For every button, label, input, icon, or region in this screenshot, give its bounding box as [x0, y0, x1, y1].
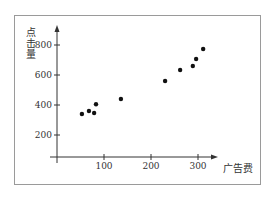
x-axis-title: 广告费: [223, 162, 253, 174]
y-axis-title: 点击量: [26, 27, 36, 60]
data-point: [201, 47, 205, 51]
data-point: [94, 102, 98, 106]
data-point: [119, 97, 123, 101]
x-tick-label: 100: [95, 161, 112, 171]
data-point: [163, 79, 167, 83]
y-tick-label: 600: [35, 70, 52, 80]
x-tick-label: 300: [189, 161, 206, 171]
data-point: [92, 111, 96, 115]
data-point: [178, 68, 182, 72]
y-tick-label: 400: [35, 100, 52, 110]
y-tick-label: 800: [35, 40, 52, 50]
data-point: [194, 57, 198, 61]
data-point: [80, 112, 84, 116]
y-tick-label: 200: [35, 130, 52, 140]
data-point: [191, 64, 195, 68]
x-tick-label: 200: [142, 161, 159, 171]
scatter-chart: 200400600800100200300 点击量 广告费: [0, 0, 270, 200]
data-point: [87, 109, 91, 113]
